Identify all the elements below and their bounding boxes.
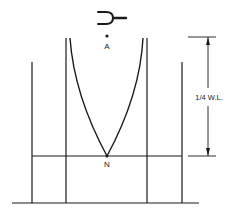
point-a-dot	[105, 34, 108, 37]
node-n-dot	[106, 155, 109, 158]
arrow-down-icon	[206, 148, 210, 156]
arrow-up-icon	[206, 37, 210, 45]
resonance-tube-diagram: A N 1/4 W.L.	[0, 0, 238, 211]
dimension-label: 1/4 W.L.	[195, 93, 223, 102]
node-n-label: N	[104, 160, 110, 169]
point-a-label: A	[104, 42, 110, 51]
displacement-curve	[70, 38, 143, 156]
tuning-fork-icon	[98, 12, 126, 24]
